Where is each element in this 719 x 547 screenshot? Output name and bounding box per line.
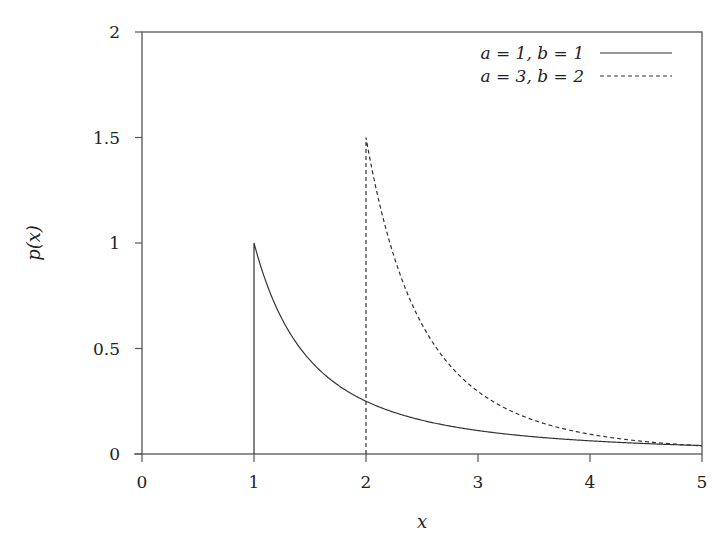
legend: a = 1, b = 1 a = 3, b = 2: [480, 43, 672, 86]
x-tick-label: 4: [585, 472, 596, 492]
series-layer: [254, 138, 702, 455]
y-tick-label: 1.5: [93, 128, 120, 148]
x-tick-label: 5: [697, 472, 708, 492]
series-line-solid: [254, 243, 702, 454]
plot-frame: [142, 32, 702, 454]
y-tick-label: 0.5: [93, 339, 120, 359]
x-tick-label: 1: [249, 472, 260, 492]
x-tick-label: 3: [473, 472, 484, 492]
x-tick-label: 2: [361, 472, 372, 492]
y-axis-label: p(x): [23, 225, 44, 261]
y-tick-label: 0: [109, 444, 120, 464]
series-line-dashed: [366, 138, 702, 455]
y-tick-label: 1: [109, 233, 120, 253]
x-tick-label: 0: [137, 472, 148, 492]
legend-label-solid: a = 1, b = 1: [480, 43, 584, 63]
y-axis-ticks: 00.511.52: [93, 22, 142, 464]
legend-label-dashed: a = 3, b = 2: [480, 66, 584, 86]
x-axis-ticks: 012345: [134, 454, 707, 492]
x-axis-label: x: [417, 511, 427, 532]
y-tick-label: 2: [109, 22, 120, 42]
pareto-pdf-chart: 00.511.52 012345 a = 1, b = 1 a = 3, b =…: [0, 0, 719, 547]
